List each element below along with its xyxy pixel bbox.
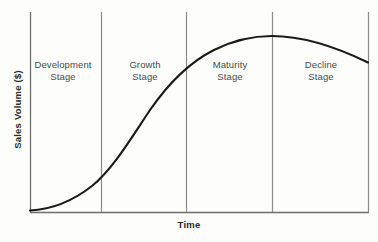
stage-label-growth: Growth Stage [110,59,180,82]
stage-label-development: Development Stage [26,59,100,82]
chart-canvas [0,0,378,242]
y-axis-label: Sales Volume ($) [12,62,23,158]
product-life-cycle-chart: Sales Volume ($) Development Stage Growt… [0,0,378,242]
x-axis-label: Time [0,219,378,230]
stage-label-maturity: Maturity Stage [194,59,266,82]
stage-label-decline: Decline Stage [282,59,360,82]
